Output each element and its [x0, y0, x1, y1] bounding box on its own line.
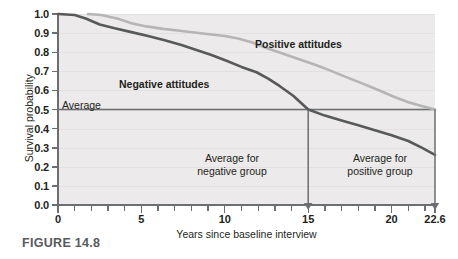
series-line-negative-attitudes	[58, 14, 435, 155]
annotation-negative-group: Average for negative group	[197, 152, 266, 177]
annotation-positive-line2: positive group	[347, 165, 412, 178]
figure-caption: FIGURE 14.8	[22, 236, 100, 250]
average-line-label: Average	[62, 100, 101, 111]
arrow-average-for-positive-group	[431, 110, 439, 211]
annotation-positive-group: Average for positive group	[347, 152, 412, 177]
annotation-negative-line2: negative group	[197, 165, 266, 178]
arrow-average-for-negative-group	[304, 110, 312, 211]
annotation-positive-line1: Average for	[347, 152, 412, 165]
series-label-positive-attitudes: Positive attitudes	[255, 39, 342, 50]
x-axis-title: Years since baseline interview	[58, 228, 435, 240]
figure-14-8: 0.00.10.20.30.40.50.60.70.80.91.0 051015…	[0, 0, 458, 259]
chart-curves	[0, 0, 458, 259]
y-axis-title: Survival probability	[24, 43, 35, 193]
annotation-negative-line1: Average for	[197, 152, 266, 165]
series-line-positive-attitudes	[88, 14, 435, 110]
series-label-negative-attitudes: Negative attitudes	[119, 79, 209, 90]
